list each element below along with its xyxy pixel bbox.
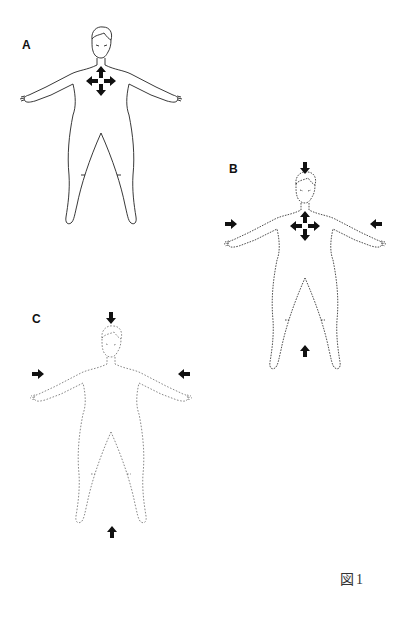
arrow-down-icon bbox=[106, 312, 116, 324]
panel-a bbox=[20, 27, 182, 224]
external-arrows bbox=[32, 312, 190, 538]
arrow-up-icon bbox=[107, 526, 117, 538]
arrow-up-icon bbox=[300, 211, 310, 223]
body-outline-faint-dashed bbox=[30, 326, 192, 523]
panel-c bbox=[30, 312, 192, 538]
panel-label-b: B bbox=[229, 162, 238, 176]
arrow-left-icon bbox=[370, 219, 382, 229]
panel-label-c: C bbox=[32, 312, 41, 326]
arrow-up-icon bbox=[300, 345, 310, 357]
panel-label-a: A bbox=[22, 38, 31, 52]
body-outline-dashed bbox=[224, 172, 386, 369]
arrow-right-icon bbox=[32, 369, 44, 379]
arrow-left-icon bbox=[178, 369, 190, 379]
figure-caption: 図1 bbox=[340, 568, 365, 588]
arrow-down-icon bbox=[300, 229, 310, 241]
chest-cross-arrows bbox=[290, 211, 320, 241]
arrow-right-icon bbox=[308, 221, 320, 231]
body-outline-solid bbox=[20, 27, 182, 224]
panel-b bbox=[224, 162, 386, 369]
arrow-left-icon bbox=[290, 221, 302, 231]
arrow-right-icon bbox=[225, 219, 237, 229]
arrow-right-icon bbox=[104, 76, 116, 86]
external-arrows bbox=[225, 162, 382, 357]
diagram-canvas bbox=[0, 0, 394, 619]
arrow-down-icon bbox=[96, 84, 106, 96]
figure-1: A B C 図1 bbox=[0, 0, 394, 619]
arrow-up-icon bbox=[96, 66, 106, 78]
chest-cross-arrows bbox=[86, 66, 116, 96]
arrow-left-icon bbox=[86, 76, 98, 86]
